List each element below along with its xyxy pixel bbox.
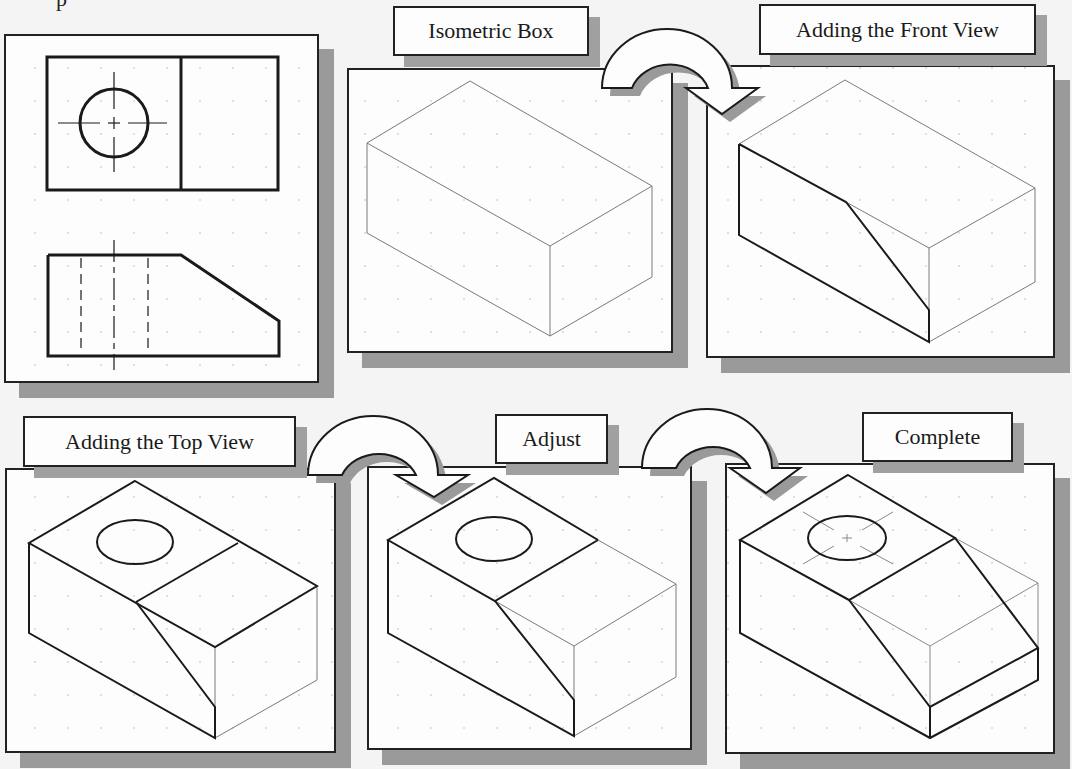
panel-top-view [5, 468, 336, 753]
label-adjust: Adjust [495, 414, 608, 464]
label-isometric-box: Isometric Box [393, 6, 589, 56]
label-top-view: Adding the Top View [23, 416, 296, 467]
panel-front-view [706, 65, 1055, 358]
panel-adjust [367, 466, 692, 750]
label-complete: Complete [862, 412, 1013, 462]
panel-isometric-box [347, 68, 673, 353]
panel-orthographic [4, 34, 319, 383]
panel-complete [725, 463, 1055, 754]
label-front-view: Adding the Front View [759, 4, 1036, 55]
cropped-text-fragment: p [56, 0, 67, 12]
